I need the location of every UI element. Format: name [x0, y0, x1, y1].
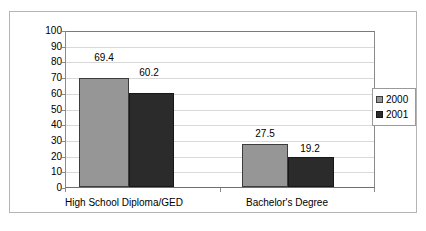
x-tick-mark-left	[65, 188, 66, 192]
data-label-high-school-2000: 69.4	[94, 53, 113, 63]
y-tick-label-10: 10	[16, 167, 62, 177]
y-axis: 100 90 80 70 60 50 40 30 20 10 0	[10, 31, 62, 188]
bar-bachelors-2001[interactable]	[288, 157, 334, 187]
y-tick-label-90: 90	[16, 42, 62, 52]
y-tick-label-80: 80	[16, 57, 62, 67]
bar-high-school-2000[interactable]	[79, 78, 129, 187]
chart-frame: 100 90 80 70 60 50 40 30 20 10 0	[9, 11, 417, 213]
x-tick-mark-right	[374, 188, 375, 192]
y-tick-label-70: 70	[16, 73, 62, 83]
y-tick-label-60: 60	[16, 89, 62, 99]
gridline-90	[66, 47, 374, 48]
legend-label-2001: 2001	[386, 110, 408, 120]
bar-bachelors-2000[interactable]	[242, 144, 288, 187]
legend-label-2000: 2000	[386, 95, 408, 105]
data-label-bachelors-2000: 27.5	[255, 129, 274, 139]
y-tick-label-30: 30	[16, 136, 62, 146]
y-tick-label-50: 50	[16, 105, 62, 115]
legend: 2000 2001	[372, 88, 416, 126]
data-label-high-school-2001: 60.2	[139, 68, 158, 78]
legend-swatch-2000-icon	[376, 96, 383, 103]
y-tick-label-100: 100	[16, 26, 62, 36]
legend-item-2000[interactable]: 2000	[376, 92, 413, 107]
y-tick-label-40: 40	[16, 120, 62, 130]
data-label-bachelors-2001: 19.2	[300, 144, 319, 154]
y-tick-label-0: 0	[16, 183, 62, 193]
x-category-label-high-school: High School Diploma/GED	[65, 197, 183, 208]
y-tick-label-20: 20	[16, 152, 62, 162]
x-category-label-bachelors: Bachelor's Degree	[246, 197, 328, 208]
x-tick-mark-mid	[220, 188, 221, 192]
bar-high-school-2001[interactable]	[129, 93, 174, 188]
legend-swatch-2001-icon	[376, 111, 383, 118]
legend-item-2001[interactable]: 2001	[376, 107, 413, 122]
